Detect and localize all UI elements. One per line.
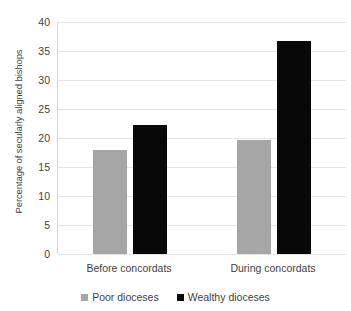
bar bbox=[237, 140, 271, 254]
bar bbox=[93, 150, 127, 254]
y-axis-tick-labels: 4035302520151050 bbox=[22, 0, 50, 311]
legend-swatch-icon bbox=[177, 294, 184, 301]
x-axis-category-labels: Before concordatsDuring concordats bbox=[57, 262, 345, 278]
y-axis-tick-label: 40 bbox=[22, 17, 50, 28]
plot-area bbox=[57, 22, 346, 254]
x-axis-category-label: During concordats bbox=[230, 262, 315, 275]
legend-swatch-icon bbox=[81, 294, 88, 301]
y-axis-tick-label: 20 bbox=[22, 133, 50, 144]
bar bbox=[133, 125, 167, 254]
y-axis-tick-label: 25 bbox=[22, 104, 50, 115]
legend-label: Poor dioceses bbox=[92, 291, 159, 303]
legend-entry: Wealthy dioceses bbox=[177, 291, 270, 303]
y-axis-tick-label: 5 bbox=[22, 220, 50, 231]
bar bbox=[277, 41, 311, 254]
legend-entry: Poor dioceses bbox=[81, 291, 159, 303]
gridline bbox=[58, 22, 346, 23]
chart-legend: Poor diocesesWealthy dioceses bbox=[0, 288, 351, 306]
y-axis-tick-label: 15 bbox=[22, 162, 50, 173]
y-axis-tick-label: 0 bbox=[22, 249, 50, 260]
gridline bbox=[58, 254, 346, 255]
y-axis-tick-label: 35 bbox=[22, 46, 50, 57]
x-axis-category-label: Before concordats bbox=[86, 262, 171, 275]
bar-chart: Percentage of secularly aligned bishops … bbox=[0, 0, 351, 311]
legend-label: Wealthy dioceses bbox=[188, 291, 270, 303]
y-axis-tick-label: 30 bbox=[22, 75, 50, 86]
y-axis-tick-label: 10 bbox=[22, 191, 50, 202]
